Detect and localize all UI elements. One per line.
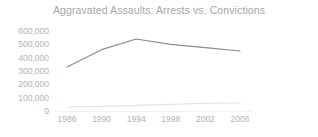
x-axis-tick-label: 1994 <box>127 114 146 124</box>
y-axis-tick-label: 600,000 <box>18 26 49 36</box>
x-axis-tick-label: 2006 <box>231 114 250 124</box>
y-axis-tick-label: 100,000 <box>18 93 49 103</box>
x-axis: 198619901994199820022006 <box>0 114 318 128</box>
plot-area <box>55 31 252 111</box>
x-axis-tick-label: 1998 <box>161 114 180 124</box>
x-axis-tick-label: 2002 <box>196 114 215 124</box>
series-group <box>55 31 252 111</box>
y-axis-tick-label: 500,000 <box>18 39 49 49</box>
series-line-arrests <box>67 39 240 67</box>
axis-baseline <box>55 111 252 112</box>
y-axis-tick-label: 200,000 <box>18 79 49 89</box>
chart-container: Aggravated Assaults: Arrests vs. Convict… <box>0 0 318 137</box>
x-axis-tick-label: 1986 <box>58 114 77 124</box>
x-axis-tick-label: 1990 <box>92 114 111 124</box>
y-axis: 600,000500,000400,000300,000200,000100,0… <box>0 25 53 117</box>
y-axis-tick-label: 400,000 <box>18 53 49 63</box>
y-axis-tick-label: 300,000 <box>18 66 49 76</box>
series-line-convictions <box>67 103 240 107</box>
chart-title: Aggravated Assaults: Arrests vs. Convict… <box>0 4 318 16</box>
